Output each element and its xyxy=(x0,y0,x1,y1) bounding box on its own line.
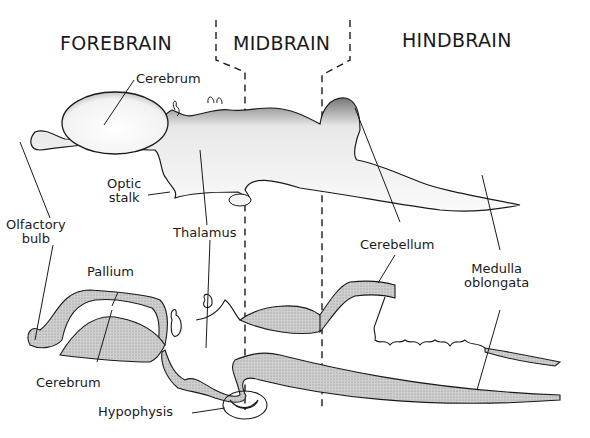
label-olfactory-bulb: Olfactory bulb xyxy=(6,218,66,247)
label-cerebellum: Cerebellum xyxy=(360,238,435,252)
label-thalamus: Thalamus xyxy=(173,226,236,240)
cerebrum-section xyxy=(60,317,165,362)
brain-illustration xyxy=(0,0,590,438)
medulla-roof xyxy=(485,348,560,366)
region-label-midbrain: MIDBRAIN xyxy=(233,33,330,54)
label-medulla-oblongata: Medulla oblongata xyxy=(464,262,529,291)
region-label-forebrain: FOREBRAIN xyxy=(60,33,172,54)
choroid-plexus xyxy=(374,297,485,348)
region-label-hindbrain: HINDBRAIN xyxy=(402,30,512,51)
cerebellum-section xyxy=(320,281,395,332)
sagittal-section-view xyxy=(28,281,560,419)
label-optic-stalk: Optic stalk xyxy=(107,177,141,206)
region-dividers xyxy=(216,20,350,410)
label-cerebrum-section: Cerebrum xyxy=(36,376,101,390)
label-pallium: Pallium xyxy=(87,265,134,279)
forebrain-midbrain-divider xyxy=(216,20,245,410)
midbrain-hindbrain-divider xyxy=(322,20,350,410)
optic-stalk-bulge xyxy=(229,194,251,206)
label-cerebrum-external: Cerebrum xyxy=(136,72,201,86)
diencephalon-floor xyxy=(162,350,560,403)
brain-regions-diagram: FOREBRAIN MIDBRAIN HINDBRAIN Cerebrum Op… xyxy=(0,0,590,438)
cerebrum-external xyxy=(62,92,168,154)
external-brain-view xyxy=(31,92,520,211)
tectum-section xyxy=(240,306,323,334)
label-hypophysis: Hypophysis xyxy=(98,405,173,419)
